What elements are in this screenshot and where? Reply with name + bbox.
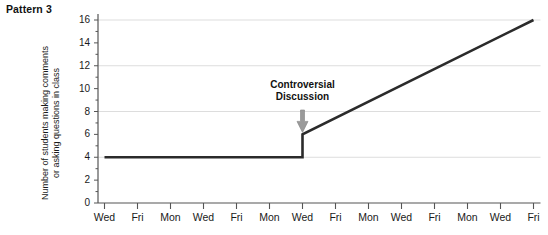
y-tick-label: 16	[64, 15, 90, 25]
x-tick-label: Fri	[514, 211, 548, 223]
annotation-arrow-icon	[297, 110, 308, 132]
y-tick-label: 8	[64, 107, 90, 117]
annotation-controversial-discussion: Controversial Discussion	[248, 79, 358, 103]
y-tick-label: 0	[64, 198, 90, 208]
y-axis-title: Number of students making comments or as…	[40, 28, 62, 218]
y-tick-label: 10	[64, 84, 90, 94]
page-title: Pattern 3	[6, 3, 52, 15]
axis-lines	[98, 14, 541, 203]
chart-container: Pattern 3 Number of students making comm…	[0, 0, 548, 235]
y-tick-label: 12	[64, 61, 90, 71]
y-tick-label: 6	[64, 129, 90, 139]
x-axis-ticks	[105, 203, 534, 209]
y-tick-label: 4	[64, 152, 90, 162]
y-tick-label: 2	[64, 175, 90, 185]
y-tick-label: 14	[64, 38, 90, 48]
